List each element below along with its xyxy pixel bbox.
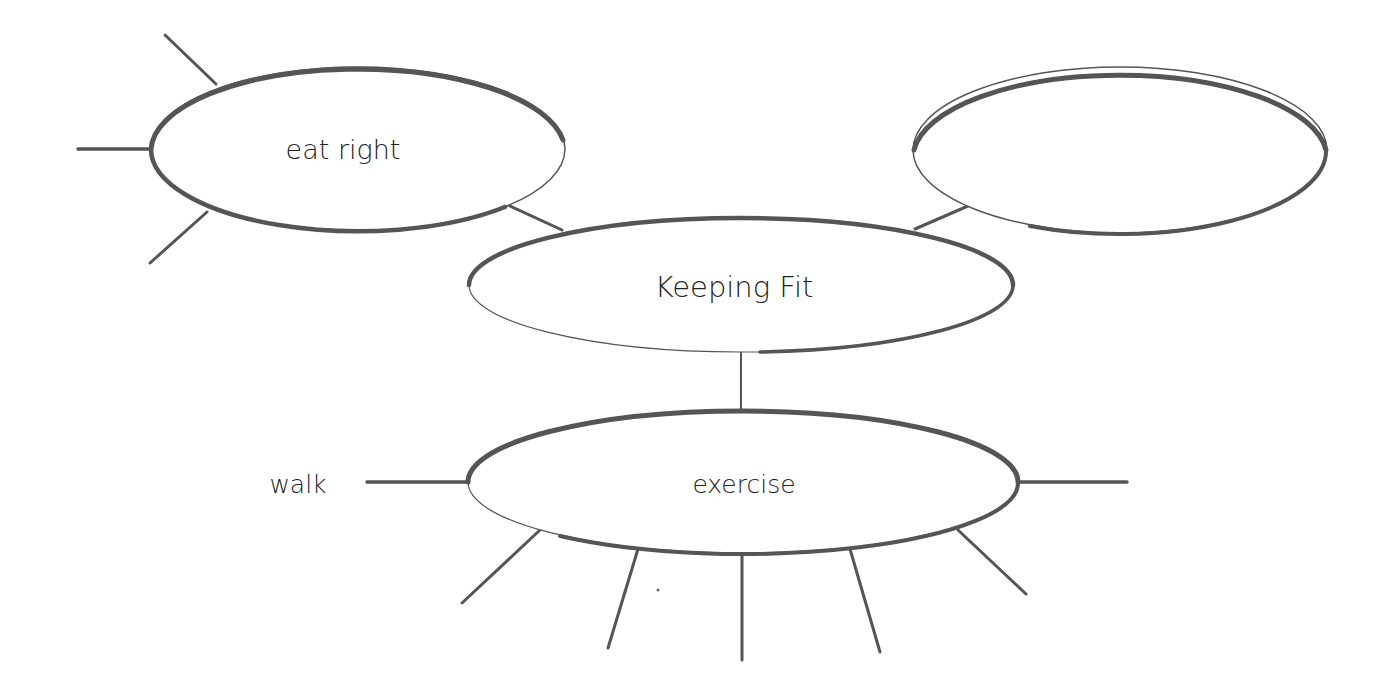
spoke-exercise-b4 [850, 549, 880, 652]
spoke-label-walk: walk [269, 470, 326, 499]
connector-eat-right [508, 205, 562, 230]
speck [657, 589, 660, 592]
spoke-eat-right-3 [150, 212, 207, 263]
spoke-eat-right-1 [165, 35, 216, 84]
connector-blank [915, 206, 968, 229]
node-exercise-label: exercise [692, 470, 795, 499]
spoke-exercise-b5 [958, 530, 1026, 594]
spoke-exercise-b2 [608, 549, 638, 648]
node-eat-right-label: eat right [286, 134, 401, 165]
concept-web-canvas [0, 0, 1387, 691]
spoke-exercise-b1 [462, 530, 540, 603]
node-center-label: Keeping Fit [655, 270, 814, 304]
